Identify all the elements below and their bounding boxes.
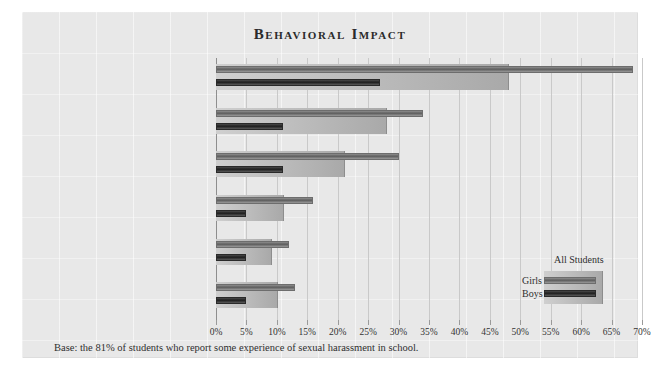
bar-group: Avoiding the Person Who Bothered/Harasse… xyxy=(216,58,642,102)
x-tick-5% xyxy=(246,320,247,325)
legend-label-boys: Boys xyxy=(522,288,541,299)
x-tick-35% xyxy=(429,320,430,325)
x-tick-label-30%: 30% xyxy=(390,327,407,337)
bar-girls xyxy=(216,66,633,73)
legend-label-girls: Girls xyxy=(522,275,541,286)
x-tick-60% xyxy=(581,320,582,325)
bar-girls xyxy=(216,284,295,291)
x-tick-label-5%: 5% xyxy=(240,327,253,337)
x-tick-label-55%: 55% xyxy=(542,327,559,337)
x-tick-label-35%: 35% xyxy=(420,327,437,337)
x-tick-label-65%: 65% xyxy=(603,327,620,337)
chart-footnote: Base: the 81% of students who report som… xyxy=(54,342,419,353)
x-tick-40% xyxy=(459,320,460,325)
x-tick-label-45%: 45% xyxy=(481,327,498,337)
legend-swatch-boys xyxy=(544,290,596,297)
bar-group: Changing Your Seat in Class to Get Farth… xyxy=(216,145,642,189)
x-tick-label-70%: 70% xyxy=(633,327,650,337)
x-tick-label-40%: 40% xyxy=(451,327,468,337)
bar-boys xyxy=(216,123,283,130)
x-tick-45% xyxy=(490,320,491,325)
x-tick-label-25%: 25% xyxy=(359,327,376,337)
bar-group: Staying Away from Particular Places in t… xyxy=(216,102,642,146)
x-tick-0% xyxy=(216,320,217,325)
x-tick-20% xyxy=(338,320,339,325)
bar-boys xyxy=(216,166,283,173)
bar-group: Stopping Attending a Particular Activity… xyxy=(216,189,642,233)
legend-label-all-students: All Students xyxy=(554,254,604,265)
x-tick-15% xyxy=(307,320,308,325)
bar-girls xyxy=(216,110,423,117)
bar-girls xyxy=(216,241,289,248)
chart-panel: Behavioral Impact 0%5%10%15%20%25%30%35%… xyxy=(22,12,638,358)
bar-girls xyxy=(216,153,399,160)
bar-girls xyxy=(216,197,313,204)
legend-row-boys: Boys xyxy=(522,290,602,300)
legend-swatch-girls xyxy=(544,277,596,284)
x-tick-label-15%: 15% xyxy=(299,327,316,337)
x-tick-30% xyxy=(399,320,400,325)
x-tick-label-20%: 20% xyxy=(329,327,346,337)
x-tick-55% xyxy=(551,320,552,325)
bar-boys xyxy=(216,254,246,261)
chart-title: Behavioral Impact xyxy=(22,26,638,43)
gridline-70% xyxy=(642,58,643,320)
x-tick-25% xyxy=(368,320,369,325)
x-tick-65% xyxy=(612,320,613,325)
x-tick-label-0%: 0% xyxy=(210,327,223,337)
chart-legend: All Students Girls Boys xyxy=(522,260,602,304)
legend-row-girls: Girls xyxy=(522,277,602,287)
x-tick-50% xyxy=(520,320,521,325)
x-tick-10% xyxy=(277,320,278,325)
bar-boys xyxy=(216,79,380,86)
x-tick-70% xyxy=(642,320,643,325)
x-tick-label-50%: 50% xyxy=(512,327,529,337)
x-tick-label-10%: 10% xyxy=(268,327,285,337)
bar-boys xyxy=(216,210,246,217)
x-tick-label-60%: 60% xyxy=(572,327,589,337)
bar-boys xyxy=(216,297,246,304)
